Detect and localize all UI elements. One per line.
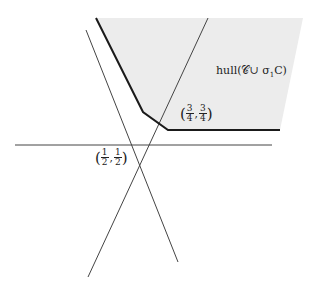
diagram-svg	[0, 0, 315, 288]
hull-label-main: hull(𝒞∪ σ	[216, 64, 270, 77]
hull-label: hull(𝒞∪ σ1C)	[216, 64, 287, 79]
p2-den1: 4	[186, 114, 194, 123]
point-label-three-quarters: (34,34)	[180, 104, 213, 123]
hull-label-tail: C)	[274, 64, 287, 77]
p1-den1: 2	[101, 158, 109, 167]
point-label-one-half: (12,12)	[95, 148, 128, 167]
p2-den2: 4	[199, 114, 207, 123]
p1-den2: 2	[114, 158, 122, 167]
diagram-canvas: hull(𝒞∪ σ1C) (34,34) (12,12)	[0, 0, 315, 288]
